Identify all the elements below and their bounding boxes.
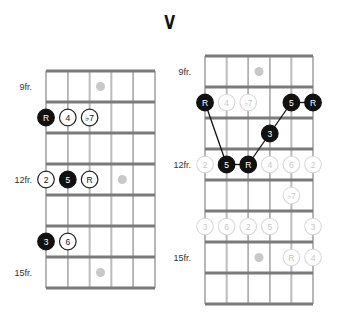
note-label: 5 <box>289 98 294 108</box>
note-label: ♭7 <box>244 98 253 108</box>
inlay-dot <box>255 253 264 262</box>
fret-line <box>46 225 155 228</box>
note-marker-open: 4 <box>60 109 77 126</box>
note-marker-filled: R <box>197 94 214 111</box>
note-label: 2 <box>311 160 316 170</box>
note-label: 4 <box>311 253 316 263</box>
note-marker-open: 2 <box>38 171 55 188</box>
note-label: R <box>245 160 251 170</box>
note-label: R <box>288 253 294 263</box>
fret-line <box>205 179 313 182</box>
note-marker-ghost: 6 <box>283 156 300 173</box>
fret-line <box>46 256 155 259</box>
note-label: 4 <box>224 98 229 108</box>
note-marker-ghost: 3 <box>305 218 322 235</box>
note-label: 4 <box>267 160 272 170</box>
note-label: 3 <box>203 222 208 232</box>
fret-line <box>46 163 155 166</box>
note-marker-open: ♭7 <box>81 109 98 126</box>
fret-line <box>46 132 155 135</box>
note-label: 4 <box>65 113 70 123</box>
note-marker-ghost: 6 <box>218 218 235 235</box>
note-label: 5 <box>224 160 229 170</box>
fret-label: 12fr. <box>14 175 32 185</box>
note-marker-ghost: ♭7 <box>240 94 257 111</box>
fret-line <box>205 55 313 58</box>
note-marker-filled: R <box>305 94 322 111</box>
note-marker-ghost: ♭7 <box>283 187 300 204</box>
note-marker-filled: 5 <box>283 94 300 111</box>
fret-line <box>205 241 313 244</box>
fret-line <box>205 272 313 275</box>
note-marker-ghost: 4 <box>305 249 322 266</box>
note-label: 6 <box>289 160 294 170</box>
note-label: 3 <box>44 237 49 247</box>
inlay-dot <box>118 175 127 184</box>
inlay-dot <box>255 67 264 76</box>
note-marker-ghost: 4 <box>262 156 279 173</box>
note-label: R <box>87 175 93 185</box>
inlay-dot <box>96 82 105 91</box>
note-label: 6 <box>65 237 70 247</box>
fret-label: 12fr. <box>173 160 191 170</box>
note-marker-ghost: 3 <box>197 218 214 235</box>
note-label: 5 <box>267 222 272 232</box>
fret-line <box>205 117 313 120</box>
fret-label: 15fr. <box>14 268 32 278</box>
fret-line <box>205 210 313 213</box>
note-marker-open: R <box>81 171 98 188</box>
note-marker-filled: 5 <box>60 171 77 188</box>
note-label: 2 <box>44 175 49 185</box>
note-label: ♭7 <box>85 113 94 123</box>
inlay-dot <box>96 268 105 277</box>
fret-label: 9fr. <box>178 67 191 77</box>
note-marker-ghost: 4 <box>218 94 235 111</box>
fret-label: 9fr. <box>19 82 32 92</box>
note-marker-ghost: 2 <box>240 218 257 235</box>
note-label: ♭7 <box>287 191 296 201</box>
note-label: R <box>43 113 49 123</box>
fret-label: 15fr. <box>173 253 191 263</box>
note-marker-ghost: 2 <box>197 156 214 173</box>
note-label: 5 <box>65 175 70 185</box>
note-marker-ghost: R <box>283 249 300 266</box>
note-marker-filled: 3 <box>38 233 55 250</box>
note-marker-filled: R <box>38 109 55 126</box>
fret-line <box>46 101 155 104</box>
note-marker-open: 6 <box>60 233 77 250</box>
note-label: 2 <box>203 160 208 170</box>
note-marker-ghost: 5 <box>262 218 279 235</box>
fret-line <box>46 287 155 290</box>
fret-line <box>205 86 313 89</box>
fretboard-left: 9fr.12fr.15fr.R4♭725R36 <box>14 70 155 290</box>
fretboard-diagrams: 9fr.12fr.15fr.R4♭725R36 9fr.12fr.15fr.R4… <box>0 0 339 319</box>
note-marker-filled: 5 <box>218 156 235 173</box>
fret-line <box>46 70 155 73</box>
fret-line <box>46 194 155 197</box>
note-label: 3 <box>311 222 316 232</box>
note-label: R <box>202 98 208 108</box>
fret-line <box>205 303 313 306</box>
note-label: 6 <box>224 222 229 232</box>
shape-connector-line <box>205 103 227 165</box>
note-label: 3 <box>267 129 272 139</box>
note-label: 2 <box>246 222 251 232</box>
note-label: R <box>310 98 316 108</box>
fretboard-right: 9fr.12fr.15fr.R4♭75R325R462♭736253R4 <box>173 55 321 306</box>
note-marker-ghost: 2 <box>305 156 322 173</box>
note-marker-filled: 3 <box>262 125 279 142</box>
note-marker-filled: R <box>240 156 257 173</box>
